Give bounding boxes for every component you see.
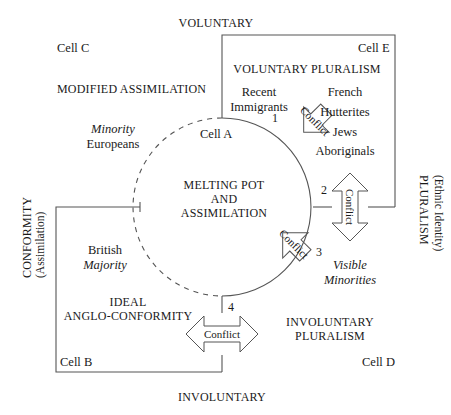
group-british-majority-line1: British: [83, 243, 127, 258]
quadrant-title-ideal-line2: ANGLO-CONFORMITY: [64, 309, 193, 323]
conflict-label-4: Conflict: [204, 328, 240, 340]
group-visible-minorities-line2: Minorities: [324, 273, 376, 288]
center-line-1: MELTING POT: [181, 178, 267, 192]
conflict-number-4: 4: [228, 300, 234, 315]
conflict-label-2: Conflict: [344, 189, 356, 225]
conflict-number-1: 1: [272, 111, 278, 126]
cell-label-e: Cell E: [358, 41, 390, 56]
group-recent-immigrants-line1: Recent: [230, 85, 288, 100]
axis-label-involuntary: INVOLUNTARY: [178, 390, 266, 404]
axis-label-pluralism: PLURALISM: [417, 175, 431, 245]
quadrant-title-ideal-line1: IDEAL: [64, 295, 193, 309]
conflict-number-2: 2: [321, 183, 327, 198]
axis-label-conformity-sub: (Assimilation): [34, 212, 48, 278]
pluralism-item-aboriginals: Aboriginals: [315, 144, 374, 159]
group-minority-europeans-line1: Minority: [87, 122, 140, 137]
conflict-number-3: 3: [316, 245, 322, 260]
quadrant-title-invol-line1: INVOLUNTARY: [286, 315, 374, 329]
group-british-majority: British Majority: [83, 243, 127, 273]
cell-label-a: Cell A: [200, 127, 232, 142]
lower-left-box-outline: [56, 207, 222, 372]
group-recent-immigrants-line2: Immigrants: [230, 100, 288, 115]
center-line-3: ASSIMILATION: [181, 206, 267, 220]
group-visible-minorities: Visible Minorities: [324, 258, 376, 288]
pluralism-item-hutterites: Hutterites: [315, 105, 374, 120]
group-british-majority-line2: Majority: [83, 258, 127, 273]
center-label-melting-pot: MELTING POT AND ASSIMILATION: [181, 178, 267, 220]
group-minority-europeans: Minority Europeans: [87, 122, 140, 152]
quadrant-title-involuntary-pluralism: INVOLUNTARY PLURALISM: [286, 315, 374, 343]
center-line-2: AND: [181, 192, 267, 206]
pluralism-item-french: French: [315, 85, 374, 100]
axis-label-conformity: CONFORMITY: [20, 197, 34, 278]
quadrant-title-voluntary-pluralism: VOLUNTARY PLURALISM: [233, 62, 380, 76]
cell-label-d: Cell D: [362, 355, 395, 370]
cell-label-b: Cell B: [60, 355, 92, 370]
axis-label-voluntary: VOLUNTARY: [179, 16, 254, 30]
group-recent-immigrants: Recent Immigrants: [230, 85, 288, 115]
diagram-canvas: VOLUNTARY INVOLUNTARY CONFORMITY (Assimi…: [0, 0, 451, 415]
group-visible-minorities-line1: Visible: [324, 258, 376, 273]
quadrant-title-invol-line2: PLURALISM: [286, 329, 374, 343]
quadrant-title-ideal-anglo-conformity: IDEAL ANGLO-CONFORMITY: [64, 295, 193, 323]
cell-label-c: Cell C: [57, 41, 89, 56]
axis-label-pluralism-sub: (Ethnic Identity): [431, 175, 445, 251]
group-minority-europeans-line2: Europeans: [87, 137, 140, 152]
quadrant-title-modified-assimilation: MODIFIED ASSIMILATION: [57, 82, 206, 96]
